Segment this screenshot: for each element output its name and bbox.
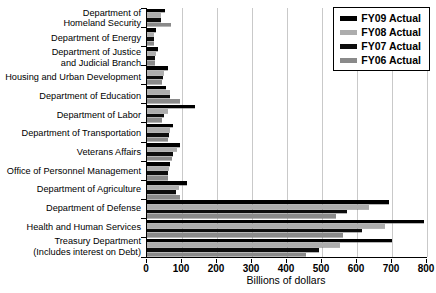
bar-fy07 bbox=[147, 114, 164, 118]
category-label: Department of Agriculture bbox=[0, 180, 141, 199]
legend-label: FY07 Actual bbox=[361, 40, 421, 52]
bar-fy09 bbox=[147, 124, 173, 128]
category-label: Department of Homeland Security bbox=[0, 8, 141, 29]
bar-chart: Department of Homeland SecurityDepartmen… bbox=[0, 0, 436, 293]
category-label: Department of Energy bbox=[0, 29, 141, 48]
bar-fy07 bbox=[147, 152, 173, 156]
bar-fy08 bbox=[147, 33, 154, 37]
bar-group bbox=[147, 200, 427, 219]
bar-fy09 bbox=[147, 200, 389, 204]
y-axis-tick bbox=[141, 257, 146, 258]
bar-fy09 bbox=[147, 105, 195, 109]
bar-fy08 bbox=[147, 13, 161, 17]
x-axis-tick bbox=[426, 259, 427, 263]
legend-entry: FY09 Actual bbox=[340, 12, 421, 24]
x-axis-tick bbox=[356, 259, 357, 263]
bar-fy09 bbox=[147, 181, 187, 185]
bar-fy06 bbox=[147, 214, 336, 218]
bar-fy09 bbox=[147, 220, 424, 224]
bar-fy06 bbox=[147, 23, 171, 27]
y-axis-tick bbox=[141, 46, 146, 47]
category-label: Health and Human Services bbox=[0, 218, 141, 237]
category-label: Department of Education bbox=[0, 87, 141, 106]
bar-group bbox=[147, 180, 427, 199]
x-tick-label: 100 bbox=[173, 263, 190, 274]
x-tick-label: 800 bbox=[418, 263, 435, 274]
bar-fy08 bbox=[147, 167, 169, 171]
y-axis-tick bbox=[141, 84, 146, 85]
bar-fy09 bbox=[147, 47, 158, 51]
legend-swatch-fy07 bbox=[340, 44, 357, 49]
bar-fy08 bbox=[147, 186, 179, 190]
category-label: Department of Transportation bbox=[0, 124, 141, 143]
y-axis-tick bbox=[141, 27, 146, 28]
bar-fy06 bbox=[147, 195, 180, 199]
x-axis-tick bbox=[391, 259, 392, 263]
bar-fy09 bbox=[147, 66, 168, 70]
legend-swatch-fy08 bbox=[340, 30, 357, 35]
legend-swatch-fy09 bbox=[340, 16, 357, 21]
y-axis-tick bbox=[141, 103, 146, 104]
y-axis-tick bbox=[141, 161, 146, 162]
x-axis-title: Billions of dollars bbox=[146, 274, 426, 286]
category-label: Department of Justice and Judicial Branc… bbox=[0, 47, 141, 68]
bar-fy09 bbox=[147, 162, 170, 166]
bar-fy07 bbox=[147, 95, 170, 99]
bar-fy08 bbox=[147, 71, 164, 75]
bar-fy07 bbox=[147, 190, 176, 194]
bar-group bbox=[147, 123, 427, 142]
legend-entry: FY06 Actual bbox=[340, 54, 421, 66]
bar-group bbox=[147, 161, 427, 180]
bar-fy06 bbox=[147, 176, 168, 180]
legend-label: FY08 Actual bbox=[361, 26, 421, 38]
y-axis-tick bbox=[141, 8, 146, 9]
bar-fy08 bbox=[147, 205, 369, 209]
bar-fy08 bbox=[147, 128, 170, 132]
bar-fy06 bbox=[147, 138, 168, 142]
category-label: Housing and Urban Development bbox=[0, 68, 141, 87]
y-axis-tick bbox=[141, 199, 146, 200]
bar-fy09 bbox=[147, 86, 166, 90]
bar-fy06 bbox=[147, 253, 306, 257]
bar-fy08 bbox=[147, 90, 170, 94]
x-axis-tick bbox=[216, 259, 217, 263]
bar-fy06 bbox=[147, 99, 180, 103]
bar-fy07 bbox=[147, 210, 347, 214]
y-axis-tick bbox=[141, 142, 146, 143]
y-axis-tick bbox=[141, 122, 146, 123]
x-tick-label: 600 bbox=[348, 263, 365, 274]
bar-group bbox=[147, 238, 427, 257]
bar-fy08 bbox=[147, 52, 156, 56]
bar-fy06 bbox=[147, 157, 172, 161]
bar-fy07 bbox=[147, 133, 169, 137]
legend-swatch-fy06 bbox=[340, 58, 357, 63]
bar-fy09 bbox=[147, 9, 165, 13]
bar-fy06 bbox=[147, 61, 155, 65]
category-label: Treasury Department (Includes interest o… bbox=[0, 236, 141, 257]
bar-group bbox=[147, 85, 427, 104]
bar-fy09 bbox=[147, 28, 156, 32]
x-tick-label: 0 bbox=[143, 263, 149, 274]
legend-label: FY06 Actual bbox=[361, 54, 421, 66]
bar-fy07 bbox=[147, 76, 163, 80]
y-axis-tick bbox=[141, 237, 146, 238]
bar-fy06 bbox=[147, 118, 162, 122]
category-label: Office of Personnel Management bbox=[0, 162, 141, 181]
y-axis-tick bbox=[141, 65, 146, 66]
x-axis-tick bbox=[181, 259, 182, 263]
x-tick-label: 700 bbox=[383, 263, 400, 274]
bar-fy07 bbox=[147, 56, 155, 60]
legend-label: FY09 Actual bbox=[361, 12, 421, 24]
legend: FY09 ActualFY08 ActualFY07 ActualFY06 Ac… bbox=[333, 7, 430, 71]
bar-fy09 bbox=[147, 239, 392, 243]
category-label: Department of Defense bbox=[0, 199, 141, 218]
category-label: Veterans Affairs bbox=[0, 143, 141, 162]
x-tick-label: 200 bbox=[208, 263, 225, 274]
category-label: Department of Labor bbox=[0, 105, 141, 124]
bar-fy08 bbox=[147, 243, 340, 247]
bar-fy07 bbox=[147, 248, 319, 252]
bar-group bbox=[147, 142, 427, 161]
x-tick-label: 500 bbox=[313, 263, 330, 274]
bar-fy06 bbox=[147, 80, 162, 84]
x-axis-tick bbox=[286, 259, 287, 263]
